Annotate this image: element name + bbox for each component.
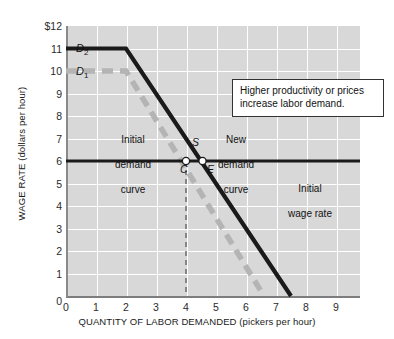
x-tick-4: 4 — [176, 301, 196, 313]
y-tick-8: 8 — [28, 111, 62, 121]
labor-demand-chart: D2 D1 C E S Initial demand curve New dem… — [0, 0, 394, 339]
y-tick-4: 4 — [28, 201, 62, 211]
point-label-s: S — [192, 136, 199, 148]
initial-demand-curve-line2: demand — [100, 159, 166, 172]
y-tick-12: $12 — [28, 21, 62, 31]
y-tick-9: 9 — [28, 89, 62, 99]
x-tick-0: 0 — [56, 301, 76, 313]
initial-wage-rate-line1: Initial — [272, 183, 348, 196]
x-tick-6: 6 — [236, 301, 256, 313]
new-demand-curve-line3: curve — [203, 184, 269, 197]
y-tick-11: 11 — [28, 44, 62, 54]
curve-label-d1-sub: 1 — [84, 71, 88, 80]
curve-label-d2-text: D — [76, 42, 84, 54]
x-tick-5: 5 — [206, 301, 226, 313]
x-axis-title: QUANTITY OF LABOR DEMANDED (pickers per … — [0, 316, 394, 327]
x-tick-8: 8 — [296, 301, 316, 313]
y-tick-10: 10 — [28, 66, 62, 76]
y-tick-3: 3 — [28, 224, 62, 234]
initial-demand-curve-line3: curve — [100, 184, 166, 197]
y-tick-6: 6 — [28, 156, 62, 166]
initial-wage-rate-line2: wage rate — [272, 208, 348, 221]
annotation-new-demand-curve: New demand curve — [203, 121, 269, 209]
curve-label-d2-sub: 2 — [84, 48, 88, 57]
new-demand-curve-line2: demand — [203, 159, 269, 172]
y-tick-7: 7 — [28, 134, 62, 144]
callout-box: Higher productivity or prices increase l… — [232, 79, 384, 117]
x-tick-2: 2 — [116, 301, 136, 313]
curve-label-d2: D2 — [76, 42, 88, 57]
y-tick-1: 1 — [28, 269, 62, 279]
x-tick-1: 1 — [86, 301, 106, 313]
x-tick-3: 3 — [146, 301, 166, 313]
point-label-c: C — [180, 163, 188, 175]
annotation-initial-demand-curve: Initial demand curve — [100, 121, 166, 209]
curve-label-d1: D1 — [76, 65, 88, 80]
initial-demand-curve-line1: Initial — [100, 134, 166, 147]
y-tick-5: 5 — [28, 179, 62, 189]
curve-label-d1-text: D — [76, 65, 84, 77]
x-tick-7: 7 — [266, 301, 286, 313]
y-axis-title: WAGE RATE (dollars per hour) — [16, 69, 27, 239]
new-demand-curve-line1: New — [203, 134, 269, 147]
y-tick-2: 2 — [28, 246, 62, 256]
x-tick-9: 9 — [326, 301, 346, 313]
annotation-initial-wage-rate: Initial wage rate — [272, 170, 348, 233]
